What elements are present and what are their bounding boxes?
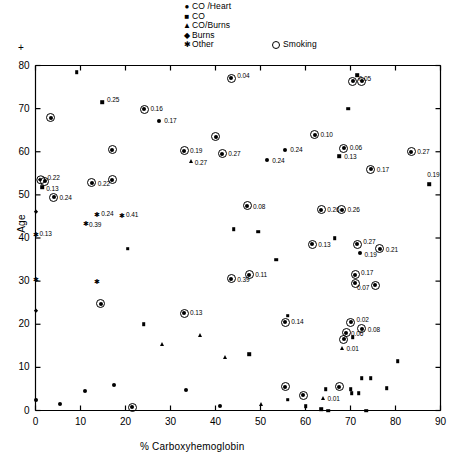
smoking-ring-icon — [211, 132, 220, 141]
point-value-label: 0.17 — [361, 270, 373, 277]
x-tick-label: 30 — [159, 417, 183, 427]
smoking-ring-icon — [96, 299, 105, 308]
circle-marker-icon — [34, 398, 38, 402]
data-point — [184, 388, 188, 392]
point-value-label: 0.10 — [321, 132, 333, 139]
data-point — [110, 178, 114, 182]
square-marker-icon — [274, 258, 278, 262]
square-marker-icon — [357, 391, 361, 395]
x-tick-label: 20 — [114, 417, 138, 427]
x-tick-label: 90 — [429, 417, 453, 427]
point-value-label: 0.41 — [126, 212, 138, 219]
data-point — [189, 159, 193, 163]
data-point — [182, 149, 186, 153]
data-point — [130, 405, 134, 409]
data-point — [126, 247, 130, 251]
smoking-ring-icon — [308, 240, 317, 249]
data-point — [342, 146, 346, 150]
point-value-label: 0.27 — [417, 149, 429, 156]
triangle-marker-icon — [340, 346, 344, 350]
triangle-marker-icon — [189, 159, 193, 163]
x-tick-label: 10 — [69, 417, 93, 427]
point-value-label: 0.08 — [368, 327, 380, 334]
circle-marker-icon — [218, 404, 222, 408]
triangle-marker-icon — [160, 342, 164, 346]
smoking-ring-icon — [337, 205, 346, 214]
data-point — [75, 70, 79, 74]
data-point — [245, 204, 249, 208]
circle-marker-icon — [265, 158, 269, 162]
point-value-label: 0.27 — [363, 239, 375, 246]
smoking-ring-icon — [87, 178, 96, 187]
data-point — [351, 79, 355, 83]
star-marker-icon: ✱ — [94, 212, 99, 217]
data-point — [369, 167, 373, 171]
data-point — [34, 310, 37, 313]
point-value-label: 0.16 — [150, 106, 162, 113]
square-marker-icon — [40, 185, 44, 189]
smoking-ring-icon — [339, 335, 348, 344]
x-tick-label: 70 — [339, 417, 363, 427]
point-value-label: 0.19 — [427, 172, 439, 179]
data-point — [198, 333, 202, 337]
point-value-label: 0.13 — [190, 310, 202, 317]
data-point — [247, 353, 251, 357]
data-point — [349, 387, 353, 391]
smoking-ring-icon — [299, 391, 308, 400]
smoking-ring-icon — [243, 201, 252, 210]
point-value-label: 0.14 — [291, 319, 303, 326]
smoking-ring-icon — [348, 77, 357, 86]
data-point — [385, 386, 389, 390]
smoking-ring-icon — [357, 77, 366, 86]
data-point: ✱ — [83, 220, 88, 225]
data-point — [259, 402, 263, 406]
smoking-ring-icon — [317, 205, 326, 214]
data-point — [369, 376, 373, 380]
point-value-label: 0.22 — [47, 175, 59, 182]
square-marker-icon — [350, 391, 354, 395]
point-value-label: 0.21 — [386, 247, 398, 254]
point-value-label: 0.19 — [365, 252, 377, 259]
square-marker-icon — [351, 335, 355, 339]
data-point: ✱ — [94, 212, 99, 217]
data-point: ✱ — [119, 213, 124, 218]
y-tick-label: 30 — [6, 276, 30, 286]
smoking-ring-icon — [46, 113, 55, 122]
point-value-label: 0.06 — [350, 145, 362, 152]
data-point — [100, 100, 104, 104]
smoking-ring-icon — [407, 147, 416, 156]
x-axis-label: % Carboxyhemoglobin — [140, 441, 244, 452]
data-point — [110, 148, 114, 152]
smoking-ring-icon — [375, 244, 384, 253]
point-value-label: 0.24 — [272, 158, 284, 165]
data-point — [157, 119, 161, 123]
star-marker-icon: ✱ — [83, 220, 88, 225]
point-value-label: 0.07 — [357, 285, 369, 292]
data-point — [364, 409, 368, 413]
y-tick-label: 0 — [6, 406, 30, 416]
data-point — [351, 335, 355, 339]
smoking-ring-icon — [218, 149, 227, 158]
data-point — [34, 210, 37, 213]
data-point — [344, 331, 348, 335]
y-axis-label: Age — [16, 194, 27, 254]
square-marker-icon — [346, 107, 350, 111]
smoking-ring-icon — [353, 240, 362, 249]
smoking-ring-icon — [227, 274, 236, 283]
square-marker-icon — [286, 398, 290, 402]
data-point — [34, 398, 38, 402]
circle-marker-icon — [58, 402, 62, 406]
circle-marker-icon — [184, 388, 188, 392]
data-point — [142, 107, 146, 111]
x-tick-label: 80 — [384, 417, 408, 427]
data-point — [349, 320, 353, 324]
square-marker-icon — [304, 404, 308, 408]
data-point — [160, 342, 164, 346]
data-point — [324, 387, 328, 391]
point-value-label: 0.13 — [344, 154, 356, 161]
square-marker-icon — [427, 182, 431, 186]
data-point — [360, 79, 364, 83]
square-marker-icon — [326, 409, 330, 413]
data-point: ✱ — [94, 279, 99, 284]
scatter-plot-figure: + ●CO /Heart ■CO ▲CO/Burns ◆Burns ✱Other… — [0, 0, 455, 467]
